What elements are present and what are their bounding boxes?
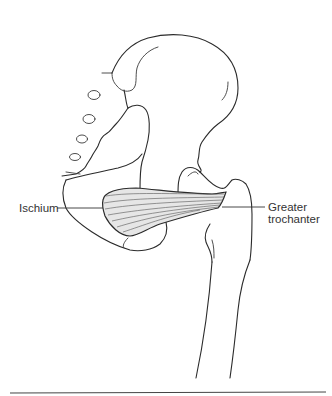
sacrum-outline: [62, 91, 128, 177]
sacral-foramen-3: [77, 135, 88, 143]
label-greater-trochanter-line2: trochanter: [268, 213, 320, 225]
posterior-pelvis-outline: [66, 105, 149, 190]
sacral-foramen-1: [88, 91, 100, 100]
label-greater-trochanter-line1: Greater: [268, 201, 320, 213]
label-ischium-text: Ischium: [19, 202, 59, 214]
hip-diagram-svg: [0, 0, 332, 396]
label-ischium: Ischium: [19, 202, 59, 214]
label-greater-trochanter: Greater trochanter: [268, 201, 320, 225]
sacral-foramen-4: [70, 154, 81, 161]
bottom-rule: [10, 392, 326, 393]
ilium-outline: [102, 35, 238, 172]
anatomy-figure: Ischium Greater trochanter: [0, 0, 332, 396]
sacral-foramen-2: [83, 115, 95, 124]
